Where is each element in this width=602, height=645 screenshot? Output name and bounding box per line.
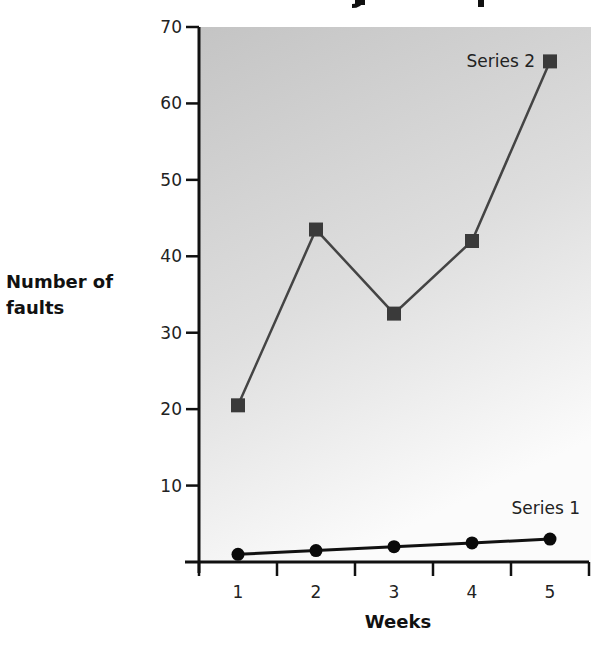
x-tick-label: 2 <box>311 582 322 602</box>
data-point-square <box>465 234 479 248</box>
plot-area-background <box>199 27 591 562</box>
x-tick-label: 4 <box>467 582 478 602</box>
data-point-square <box>231 398 245 412</box>
data-point-circle <box>388 540 401 553</box>
y-tick-label: 40 <box>160 246 182 266</box>
y-axis-title-line1: Number of <box>6 271 113 292</box>
data-point-circle <box>544 533 557 546</box>
data-point-circle <box>232 548 245 561</box>
y-tick-label: 10 <box>160 476 182 496</box>
y-axis: 10203040506070 <box>160 17 199 573</box>
x-tick-label: 5 <box>545 582 556 602</box>
x-axis-title: Weeks <box>365 611 431 632</box>
data-point-circle <box>310 544 323 557</box>
x-tick-label: 1 <box>233 582 244 602</box>
chart-title-cropped <box>352 0 484 7</box>
x-tick-label: 3 <box>389 582 400 602</box>
y-tick-label: 20 <box>160 399 182 419</box>
y-tick-label: 30 <box>160 323 182 343</box>
line-chart: 10203040506070 12345 Series 1Series 2 Nu… <box>0 0 602 645</box>
y-axis-title-line2: faults <box>6 297 64 318</box>
data-point-square <box>309 223 323 237</box>
data-point-square <box>543 54 557 68</box>
data-point-square <box>387 307 401 321</box>
y-tick-label: 60 <box>160 93 182 113</box>
series-label: Series 2 <box>467 51 536 71</box>
y-tick-label: 50 <box>160 170 182 190</box>
y-tick-label: 70 <box>160 17 182 37</box>
x-axis: 12345 <box>185 562 589 602</box>
series-label: Series 1 <box>512 498 581 518</box>
data-point-circle <box>466 536 479 549</box>
